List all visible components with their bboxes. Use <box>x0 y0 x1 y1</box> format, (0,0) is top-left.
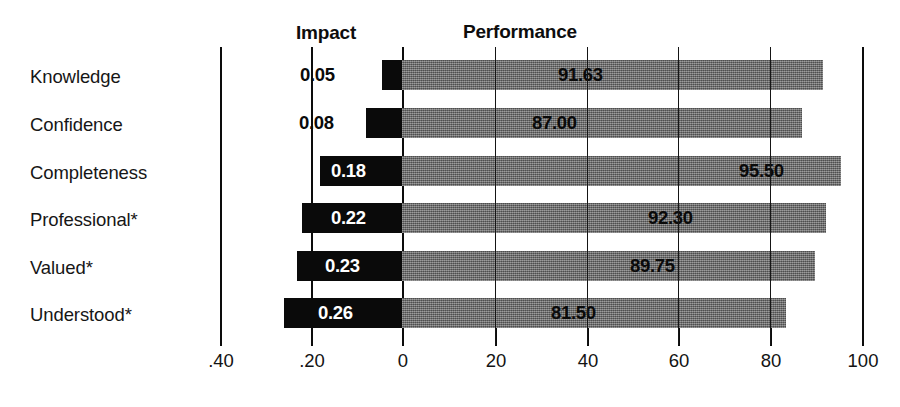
tick-label-perf-80: 80 <box>761 350 782 372</box>
performance-bar-confidence[interactable] <box>402 108 802 138</box>
performance-bar-valued[interactable] <box>402 251 815 281</box>
impact-value-valued: 0.23 <box>325 251 360 281</box>
impact-value-completeness: 0.18 <box>331 156 366 186</box>
bar-row-professional: 0.22 92.30 <box>0 203 900 233</box>
impact-bar-confidence[interactable] <box>366 108 402 138</box>
impact-value-knowledge: 0.05 <box>300 60 335 90</box>
performance-value-professional: 92.30 <box>648 203 693 233</box>
tick-zero <box>402 328 404 346</box>
tick-label-perf-100: 100 <box>848 350 879 372</box>
tick-label-impact-040: .40 <box>208 350 234 372</box>
impact-column-title: Impact <box>296 22 356 44</box>
performance-bar-professional[interactable] <box>402 203 826 233</box>
bar-row-valued: 0.23 89.75 <box>0 251 900 281</box>
bar-row-confidence: 0.08 87.00 <box>0 108 900 138</box>
impact-value-understood: 0.26 <box>318 298 353 328</box>
chart-canvas: Impact Performance Knowledge Confidence … <box>0 0 900 407</box>
performance-value-valued: 89.75 <box>630 251 675 281</box>
bar-row-understood: 0.26 81.50 <box>0 298 900 328</box>
impact-bar-knowledge[interactable] <box>382 60 402 90</box>
tick-label-impact-020: .20 <box>299 350 325 372</box>
performance-value-confidence: 87.00 <box>532 108 577 138</box>
tick-label-zero: 0 <box>398 350 408 372</box>
gridline-perf-40 <box>587 47 588 345</box>
impact-value-professional: 0.22 <box>331 203 366 233</box>
tick-impact-020 <box>311 328 313 346</box>
tick-perf-100 <box>862 328 864 346</box>
tick-label-perf-40: 40 <box>578 350 599 372</box>
bar-row-completeness: 0.18 95.50 <box>0 156 900 186</box>
tick-impact-040 <box>220 328 222 346</box>
performance-column-title: Performance <box>463 21 577 43</box>
gridline-perf-60 <box>678 47 679 345</box>
performance-value-completeness: 95.50 <box>739 156 784 186</box>
bar-row-knowledge: 0.05 91.63 <box>0 60 900 90</box>
performance-value-knowledge: 91.63 <box>558 60 603 90</box>
gridline-perf-20 <box>495 47 496 345</box>
tick-label-perf-60: 60 <box>669 350 690 372</box>
tick-label-perf-20: 20 <box>486 350 507 372</box>
gridline-perf-80 <box>770 47 771 345</box>
performance-value-understood: 81.50 <box>551 298 596 328</box>
performance-bar-knowledge[interactable] <box>402 60 823 90</box>
impact-value-confidence: 0.08 <box>299 108 334 138</box>
